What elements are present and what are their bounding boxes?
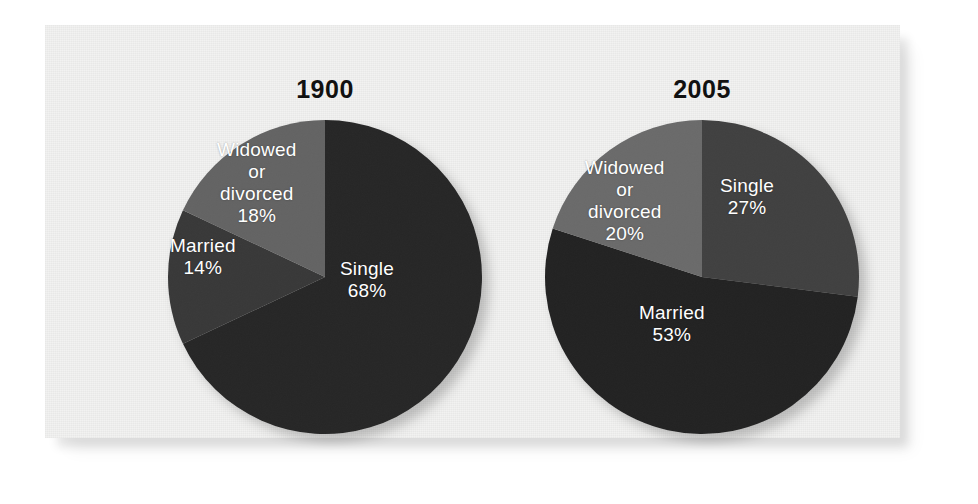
chart-title-1900: 1900: [135, 75, 515, 104]
pie-graphic-1900: [135, 120, 515, 450]
pie-graphic-2005: [512, 120, 892, 450]
slice-label-name: Single: [340, 258, 394, 280]
figure-root: 1900 Single68%Married14%Widowed or divor…: [0, 0, 978, 504]
slice-label-name: Married: [639, 302, 705, 324]
chart-title-2005: 2005: [512, 75, 892, 104]
slice-label-married: Married14%: [170, 235, 236, 279]
slice-label-percent: 18%: [217, 205, 297, 227]
page-panel: 1900 Single68%Married14%Widowed or divor…: [45, 25, 900, 438]
pie-chart-1900: 1900 Single68%Married14%Widowed or divor…: [135, 25, 515, 465]
slice-label-single: Single68%: [340, 258, 394, 302]
slice-label-name: Widowed or divorced: [217, 139, 297, 205]
slice-label-percent: 27%: [720, 197, 774, 219]
slice-label-widowed-or-divorced: Widowed or divorced18%: [217, 139, 297, 227]
slice-label-widowed-or-divorced: Widowed or divorced20%: [585, 157, 665, 245]
slice-label-married: Married53%: [639, 302, 705, 346]
slice-label-name: Widowed or divorced: [585, 157, 665, 223]
slice-label-single: Single27%: [720, 175, 774, 219]
pie-chart-2005: 2005 Single27%Married53%Widowed or divor…: [512, 25, 892, 465]
slice-label-percent: 68%: [340, 280, 394, 302]
slice-label-percent: 20%: [585, 223, 665, 245]
slice-label-percent: 53%: [639, 324, 705, 346]
slice-label-name: Married: [170, 235, 236, 257]
slice-label-name: Single: [720, 175, 774, 197]
slice-label-percent: 14%: [170, 257, 236, 279]
pie-area-2005: Single27%Married53%Widowed or divorced20…: [512, 120, 892, 450]
pie-area-1900: Single68%Married14%Widowed or divorced18…: [135, 120, 515, 450]
